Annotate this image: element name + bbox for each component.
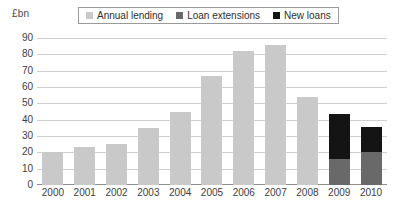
y-axis-tick-label: 90 — [3, 33, 33, 43]
bar-stack[interactable] — [265, 45, 286, 185]
y-axis-tick-label: 40 — [3, 115, 33, 125]
bar-slot — [355, 38, 387, 185]
legend-item-label: Loan extensions — [187, 11, 260, 21]
y-axis-tick-label: 10 — [3, 164, 33, 174]
y-axis-tick-labels: 9080706050403020100 — [0, 38, 33, 185]
x-axis-tick-label: 2001 — [69, 188, 101, 198]
bar-slot — [101, 38, 133, 185]
legend-item: Annual lending — [86, 11, 163, 21]
bar-segment[interactable] — [74, 147, 95, 185]
bar-segment[interactable] — [201, 76, 222, 185]
bar-stack[interactable] — [106, 144, 127, 185]
bar-slot — [323, 38, 355, 185]
bar-stack[interactable] — [42, 152, 63, 185]
y-axis-unit-label: £bn — [12, 8, 29, 19]
y-axis-tick-label: 0 — [3, 180, 33, 190]
y-axis-tick-label: 30 — [3, 131, 33, 141]
bar-segment[interactable] — [361, 127, 382, 152]
bar-slot — [37, 38, 69, 185]
bar-slot — [164, 38, 196, 185]
y-axis-tick-label: 20 — [3, 147, 33, 157]
y-axis-tick-label: 60 — [3, 82, 33, 92]
bar-segment[interactable] — [329, 114, 350, 159]
x-axis-tick-label: 2002 — [101, 188, 133, 198]
bar-segment[interactable] — [265, 45, 286, 185]
x-axis-tick-label: 2004 — [164, 188, 196, 198]
y-axis-tick-label: 50 — [3, 98, 33, 108]
x-axis-tick-label: 2000 — [37, 188, 69, 198]
bar-stack[interactable] — [201, 76, 222, 185]
bar-segment[interactable] — [170, 112, 191, 186]
bar-stack[interactable] — [361, 127, 382, 185]
bar-stack[interactable] — [233, 51, 254, 185]
y-axis-tick-label: 80 — [3, 49, 33, 59]
x-axis-tick-labels: 2000200120022003200420052006200720082009… — [37, 188, 387, 198]
bar-slot — [132, 38, 164, 185]
bar-series-group — [37, 38, 387, 185]
bar-stack[interactable] — [170, 112, 191, 186]
x-axis-tick-label: 2010 — [355, 188, 387, 198]
bar-segment[interactable] — [297, 97, 318, 185]
bar-segment[interactable] — [138, 128, 159, 185]
legend-swatch-icon — [176, 12, 183, 19]
legend-item: New loans — [273, 11, 331, 21]
y-axis-tick-label: 70 — [3, 66, 33, 76]
bar-segment[interactable] — [233, 51, 254, 185]
x-axis-tick-label: 2007 — [260, 188, 292, 198]
x-axis-tick-label: 2009 — [323, 188, 355, 198]
legend-item-label: Annual lending — [97, 11, 163, 21]
x-axis-tick-label: 2006 — [228, 188, 260, 198]
bar-segment[interactable] — [106, 144, 127, 185]
bar-stack[interactable] — [297, 97, 318, 185]
bar-segment[interactable] — [361, 152, 382, 185]
bar-chart: £bn Annual lendingLoan extensionsNew loa… — [0, 0, 398, 220]
bar-slot — [292, 38, 324, 185]
bar-stack[interactable] — [138, 128, 159, 185]
bar-slot — [228, 38, 260, 185]
bar-stack[interactable] — [74, 147, 95, 185]
chart-legend: Annual lendingLoan extensionsNew loans — [78, 7, 339, 24]
bar-slot — [196, 38, 228, 185]
legend-item-label: New loans — [284, 11, 331, 21]
bar-stack[interactable] — [329, 114, 350, 185]
x-axis-tick-label: 2005 — [196, 188, 228, 198]
bar-segment[interactable] — [42, 152, 63, 185]
bar-segment[interactable] — [329, 159, 350, 185]
legend-swatch-icon — [86, 12, 93, 19]
x-axis-tick-label: 2008 — [292, 188, 324, 198]
legend-item: Loan extensions — [176, 11, 260, 21]
bar-slot — [69, 38, 101, 185]
legend-swatch-icon — [273, 12, 280, 19]
x-axis-tick-label: 2003 — [132, 188, 164, 198]
bar-slot — [260, 38, 292, 185]
